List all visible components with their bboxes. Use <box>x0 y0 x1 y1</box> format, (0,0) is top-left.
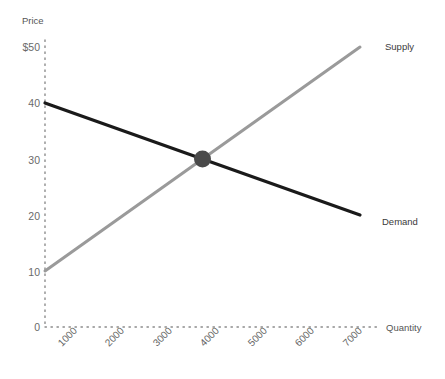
y-tick-label-0: 0 <box>34 321 40 333</box>
x-tick-label-5000: 5000 <box>246 325 270 349</box>
x-tick-label-2000: 2000 <box>103 325 127 349</box>
y-axis-title: Price <box>22 15 44 26</box>
y-tick-label-50: $50 <box>22 41 40 53</box>
equilibrium-point-marker <box>194 151 211 168</box>
chart-canvas: Price Quantity $50 40 30 20 10 0 1000 20… <box>0 0 445 379</box>
x-tick-label-4000: 4000 <box>198 325 222 349</box>
x-tick-label-1000: 1000 <box>56 325 80 349</box>
y-tick-label-30: 30 <box>28 154 40 166</box>
x-axis-title: Quantity <box>386 322 422 333</box>
demand-series-label: Demand <box>382 216 418 227</box>
y-tick-label-20: 20 <box>28 210 40 222</box>
supply-demand-chart: Price Quantity $50 40 30 20 10 0 1000 20… <box>0 0 445 379</box>
y-tick-label-10: 10 <box>28 266 40 278</box>
x-tick-label-7000: 7000 <box>341 325 365 349</box>
supply-series-label: Supply <box>385 41 414 52</box>
y-tick-label-40: 40 <box>28 97 40 109</box>
x-tick-label-3000: 3000 <box>151 325 175 349</box>
x-tick-label-6000: 6000 <box>293 325 317 349</box>
